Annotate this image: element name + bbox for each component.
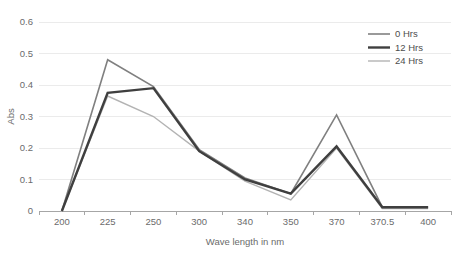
y-tick-label: 0 <box>28 205 33 216</box>
x-tick-label: 300 <box>191 216 207 227</box>
legend-label: 0 Hrs <box>395 28 418 39</box>
x-tick-label: 340 <box>237 216 253 227</box>
gridlines <box>39 22 451 180</box>
y-tick-label: 0.2 <box>20 142 33 153</box>
x-tick-label: 350 <box>283 216 299 227</box>
legend-label: 24 Hrs <box>395 55 423 66</box>
y-tick-label: 0.1 <box>20 174 33 185</box>
x-tick-label: 225 <box>100 216 116 227</box>
series-lines <box>62 60 428 211</box>
series-line <box>62 60 428 211</box>
legend-label: 12 Hrs <box>395 42 423 53</box>
x-tick-label: 400 <box>420 216 436 227</box>
line-chart: 00.10.20.30.40.50.6 20022525030034035037… <box>0 0 460 257</box>
y-tick-label: 0.5 <box>20 48 33 59</box>
y-axis-tick-labels: 00.10.20.30.40.50.6 <box>20 16 33 216</box>
y-tick-label: 0.3 <box>20 111 33 122</box>
x-axis-line <box>39 211 451 215</box>
x-tick-label: 250 <box>146 216 162 227</box>
legend: 0 Hrs12 Hrs24 Hrs <box>368 28 423 66</box>
x-axis-title: Wave length in nm <box>206 236 284 247</box>
y-axis-title: Abs <box>5 108 16 125</box>
chart-canvas: 00.10.20.30.40.50.6 20022525030034035037… <box>0 0 460 257</box>
x-axis-tick-labels: 200225250300340350370370.5400 <box>54 216 436 227</box>
x-tick-label: 370.5 <box>370 216 394 227</box>
y-tick-label: 0.4 <box>20 79 33 90</box>
x-tick-label: 370 <box>329 216 345 227</box>
y-tick-label: 0.6 <box>20 16 33 27</box>
series-line <box>62 88 428 211</box>
x-tick-label: 200 <box>54 216 70 227</box>
